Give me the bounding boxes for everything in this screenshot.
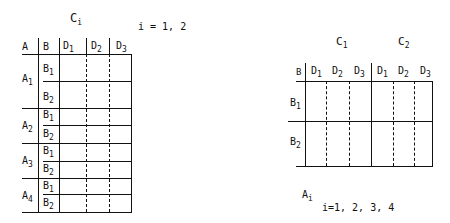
b-sub: 2	[49, 202, 54, 211]
b-sub: 2	[49, 133, 54, 142]
grid-line	[38, 54, 39, 212]
header-b: B	[296, 67, 301, 77]
grid-line	[296, 81, 433, 82]
b-sub: 1	[49, 68, 54, 77]
header-d2: D2	[398, 66, 409, 76]
a-sub: 3	[28, 160, 33, 169]
left-index-note: i = 1, 2	[138, 22, 186, 32]
group-label-c2: C2	[398, 37, 409, 47]
row-label-a3: A3	[22, 156, 33, 166]
grid-line	[371, 81, 372, 166]
grid-line	[43, 81, 132, 82]
header-divider	[86, 38, 87, 54]
header-b: B	[43, 42, 49, 52]
title-sub: i	[77, 18, 82, 27]
dashed-grid-line	[414, 81, 415, 166]
right-table-caption: Ai	[302, 190, 313, 200]
grid-line	[131, 54, 132, 212]
b-sub: 1	[49, 150, 54, 159]
grid-line	[296, 166, 433, 167]
d-sub: 1	[383, 70, 388, 79]
grid-line	[43, 194, 132, 195]
grid-line	[59, 54, 60, 212]
row-label-b1: B1	[43, 181, 54, 191]
d-sub: 3	[122, 45, 127, 54]
b-sub: 2	[296, 141, 301, 150]
caption-sub: i	[308, 194, 313, 203]
dashed-grid-line	[393, 81, 394, 166]
b-sub: 2	[49, 96, 54, 105]
header-d1: D1	[377, 66, 388, 76]
dashed-grid-line	[349, 81, 350, 166]
header-d2: D2	[332, 66, 343, 76]
a-sub: 1	[28, 78, 33, 87]
row-label-b2: B2	[290, 137, 301, 147]
header-d3: D3	[420, 66, 431, 76]
row-label-b1: B1	[43, 146, 54, 156]
row-label-a2: A2	[22, 121, 33, 131]
header-d1: D1	[63, 41, 74, 51]
group-label-c1: C1	[336, 37, 347, 47]
header-d3: D3	[116, 41, 127, 51]
header-divider	[38, 38, 39, 54]
d-sub: 2	[404, 70, 409, 79]
header-d2: D2	[91, 41, 102, 51]
header-divider	[371, 63, 372, 81]
d-sub: 3	[426, 70, 431, 79]
dashed-grid-line	[326, 81, 327, 166]
row-label-b2: B2	[43, 198, 54, 208]
d-sub: 2	[338, 70, 343, 79]
b-sub: 1	[49, 185, 54, 194]
b-sub: 1	[296, 102, 301, 111]
left-table-title: Ci	[70, 13, 82, 23]
header-a: A	[22, 42, 28, 52]
row-label-b1: B1	[43, 110, 54, 120]
row-label-b2: B2	[43, 129, 54, 139]
row-label-a4: A4	[22, 191, 33, 201]
d-sub: 1	[69, 45, 74, 54]
dashed-grid-line	[86, 54, 87, 212]
c-base: C	[398, 35, 405, 48]
header-d1: D1	[311, 66, 322, 76]
d-sub: 2	[97, 45, 102, 54]
header-divider	[305, 63, 306, 81]
grid-line	[22, 212, 132, 213]
d-sub: 3	[360, 70, 365, 79]
d-sub: 1	[317, 70, 322, 79]
row-label-b2: B2	[43, 164, 54, 174]
header-divider	[109, 38, 110, 54]
grid-line	[43, 161, 132, 162]
a-sub: 4	[28, 195, 33, 204]
grid-line	[305, 81, 306, 166]
grid-line	[288, 121, 433, 122]
row-label-a1: A1	[22, 74, 33, 84]
c-base: C	[336, 35, 343, 48]
header-d3: D3	[354, 66, 365, 76]
grid-line	[432, 81, 433, 166]
c-sub: 1	[343, 41, 348, 50]
header-divider	[59, 38, 60, 54]
row-label-b1: B1	[290, 98, 301, 108]
grid-line	[43, 125, 132, 126]
c-sub: 2	[405, 41, 410, 50]
dashed-grid-line	[109, 54, 110, 212]
right-index-note: i=1, 2, 3, 4	[322, 203, 394, 213]
b-sub: 1	[49, 114, 54, 123]
b-sub: 2	[49, 168, 54, 177]
row-label-b1: B1	[43, 64, 54, 74]
a-sub: 2	[28, 125, 33, 134]
row-label-b2: B2	[43, 92, 54, 102]
